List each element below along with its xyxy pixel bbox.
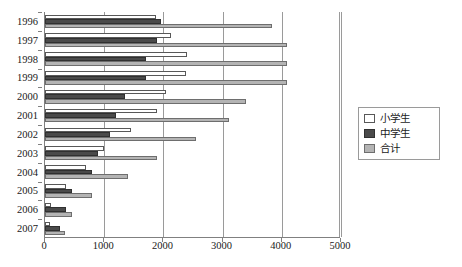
bar-2003-合计 xyxy=(45,156,157,161)
bar-group-2003 xyxy=(45,144,340,163)
y-axis-tick-1 xyxy=(38,31,42,32)
y-axis-label-2006: 2006 xyxy=(17,204,38,215)
bar-1997-合计 xyxy=(45,43,287,48)
bar-1996-合计 xyxy=(45,24,272,29)
y-axis-tick-2 xyxy=(38,50,42,51)
bar-group-2001 xyxy=(45,106,340,125)
y-axis-tick-11 xyxy=(38,219,42,220)
bar-group-2004 xyxy=(45,163,340,182)
bar-group-1997 xyxy=(45,31,340,50)
top-caption-strip xyxy=(0,0,462,9)
legend-label-小学生: 小学生 xyxy=(380,113,410,124)
bar-2006-合计 xyxy=(45,212,72,217)
x-axis-tick-1000 xyxy=(103,238,104,242)
bar-2000-合计 xyxy=(45,99,246,104)
y-axis-label-2004: 2004 xyxy=(17,167,38,178)
chart-legend: 小学生中学生合计 xyxy=(358,107,440,160)
y-axis-label-2002: 2002 xyxy=(17,129,38,140)
dark-gray-square-swatch xyxy=(364,129,375,138)
bar-group-2006 xyxy=(45,200,340,219)
bar-group-1998 xyxy=(45,50,340,69)
y-axis-tick-6 xyxy=(38,125,42,126)
y-axis-tick-5 xyxy=(38,106,42,107)
bar-2007-合计 xyxy=(45,231,65,236)
y-axis-label-2005: 2005 xyxy=(17,185,38,196)
bar-group-2007 xyxy=(45,219,340,238)
bar-group-1999 xyxy=(45,69,340,88)
legend-item-小学生: 小学生 xyxy=(364,111,439,126)
y-axis-label-1997: 1997 xyxy=(17,35,38,46)
legend-label-合计: 合计 xyxy=(380,143,400,154)
x-axis-tick-3000 xyxy=(222,238,223,242)
bar-chart: 1996199719981999200020012002200320042005… xyxy=(0,0,462,267)
y-axis-tick-10 xyxy=(38,200,42,201)
bar-group-2002 xyxy=(45,125,340,144)
white-square-swatch xyxy=(364,114,375,123)
y-axis-label-2003: 2003 xyxy=(17,148,38,159)
y-axis-label-1996: 1996 xyxy=(17,16,38,27)
y-axis-tick-9 xyxy=(38,182,42,183)
plot-area xyxy=(44,12,340,238)
y-axis-label-2007: 2007 xyxy=(17,223,38,234)
bar-group-1996 xyxy=(45,12,340,31)
bar-1998-合计 xyxy=(45,61,287,66)
light-gray-square-swatch xyxy=(364,144,375,153)
bar-rows xyxy=(45,12,340,237)
y-axis-tick-8 xyxy=(38,163,42,164)
bar-2004-合计 xyxy=(45,174,128,179)
y-axis-tick-7 xyxy=(38,144,42,145)
bar-group-2005 xyxy=(45,182,340,201)
y-axis-tick-4 xyxy=(38,87,42,88)
x-axis-tick-5000 xyxy=(340,238,341,242)
y-axis-label-1998: 1998 xyxy=(17,54,38,65)
legend-label-中学生: 中学生 xyxy=(380,128,410,139)
y-axis-label-2001: 2001 xyxy=(17,110,38,121)
legend-item-合计: 合计 xyxy=(364,141,439,156)
gridline-5000 xyxy=(341,12,342,237)
bar-2002-合计 xyxy=(45,137,196,142)
y-axis-label-2000: 2000 xyxy=(17,91,38,102)
y-axis-category-labels: 1996199719981999200020012002200320042005… xyxy=(0,12,42,238)
x-axis-tick-labels: 010002000300040005000 xyxy=(0,240,462,256)
legend-item-中学生: 中学生 xyxy=(364,126,439,141)
x-axis-tick-0 xyxy=(44,238,45,242)
x-axis-tick-4000 xyxy=(281,238,282,242)
bar-2001-合计 xyxy=(45,118,229,123)
y-axis-label-1999: 1999 xyxy=(17,72,38,83)
bar-group-2000 xyxy=(45,87,340,106)
x-axis-tick-2000 xyxy=(162,238,163,242)
bar-1999-合计 xyxy=(45,80,287,85)
y-axis-tick-0 xyxy=(38,12,42,13)
y-axis-tick-3 xyxy=(38,69,42,70)
bar-2005-合计 xyxy=(45,193,92,198)
